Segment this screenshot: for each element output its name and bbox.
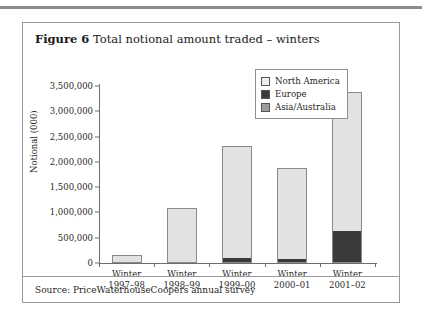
y-tick-label: 0 bbox=[88, 258, 93, 268]
y-tick-label: 1,000,000 bbox=[50, 207, 93, 217]
y-tick-label: 2,000,000 bbox=[50, 157, 93, 167]
legend-label-europe: Europe bbox=[275, 88, 307, 100]
page-top-rule bbox=[0, 6, 422, 9]
y-tick-label: 3,500,000 bbox=[50, 81, 93, 91]
bar-segment bbox=[223, 147, 251, 258]
figure-title-text: Total notional amount traded – winters bbox=[93, 32, 320, 46]
y-tick-label: 3,000,000 bbox=[50, 106, 93, 116]
x-tick-mark bbox=[154, 263, 155, 267]
figure-page: Figure 6 Total notional amount traded – … bbox=[0, 0, 422, 320]
y-tick-label: 1,500,000 bbox=[50, 182, 93, 192]
bar-4[interactable] bbox=[277, 168, 307, 263]
bar-segment bbox=[223, 258, 251, 262]
chart-area: Notional (000) 0500,0001,000,0001,500,00… bbox=[23, 53, 401, 271]
bar-segment bbox=[333, 231, 361, 262]
x-category-line: Winter bbox=[312, 269, 382, 280]
bar-segment bbox=[168, 209, 196, 262]
x-tick-mark bbox=[99, 263, 100, 267]
bar-1[interactable] bbox=[112, 255, 142, 263]
legend-label-asia-australia: Asia/Australia bbox=[275, 101, 336, 113]
y-axis-label: Notional (000) bbox=[29, 110, 39, 173]
x-tick-mark bbox=[265, 263, 266, 267]
source-divider bbox=[23, 276, 399, 277]
legend-label-north-america: North America bbox=[275, 75, 340, 87]
bar-segment bbox=[278, 169, 306, 259]
bar-segment bbox=[278, 259, 306, 262]
legend-swatch-europe bbox=[261, 90, 270, 99]
figure-box: Figure 6 Total notional amount traded – … bbox=[22, 22, 400, 303]
bar-2[interactable] bbox=[167, 208, 197, 263]
legend-item: Asia/Australia bbox=[261, 101, 340, 113]
figure-source: Source: PriceWaterhouseCoopers annual su… bbox=[35, 285, 255, 295]
chart-legend: North America Europe Asia/Australia bbox=[255, 69, 348, 119]
legend-swatch-asia-australia bbox=[261, 103, 270, 112]
x-category-line: 2001–02 bbox=[312, 280, 382, 291]
x-tick-mark bbox=[209, 263, 210, 267]
bar-segment bbox=[113, 256, 141, 262]
y-tick-label: 500,000 bbox=[58, 233, 93, 243]
y-tick-label: 2,500,000 bbox=[50, 132, 93, 142]
x-axis-line bbox=[99, 263, 377, 264]
x-category-label: Winter2001–02 bbox=[312, 269, 382, 291]
legend-item: North America bbox=[261, 75, 340, 87]
x-tick-mark bbox=[375, 263, 376, 267]
legend-item: Europe bbox=[261, 88, 340, 100]
x-tick-mark bbox=[320, 263, 321, 267]
legend-swatch-north-america bbox=[261, 77, 270, 86]
figure-number: Figure 6 bbox=[35, 32, 89, 46]
figure-title: Figure 6 Total notional amount traded – … bbox=[35, 32, 320, 46]
bar-3[interactable] bbox=[222, 146, 252, 263]
